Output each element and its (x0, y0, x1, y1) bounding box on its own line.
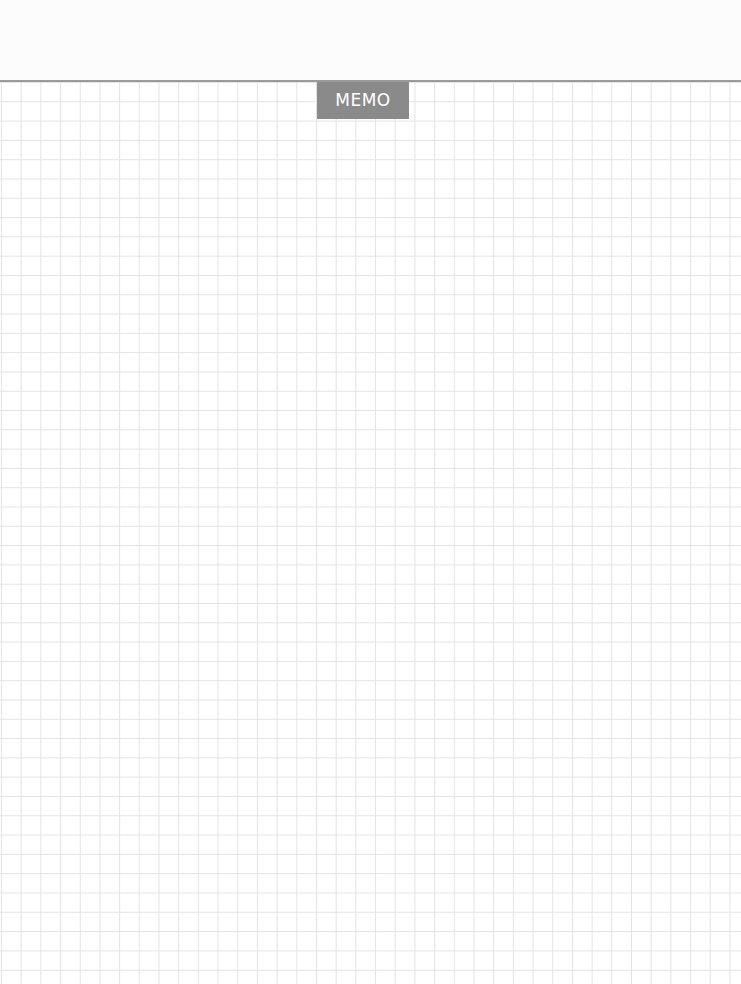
memo-header-area (0, 0, 741, 80)
memo-label: MEMO (317, 82, 409, 119)
grid-paper (0, 82, 741, 984)
